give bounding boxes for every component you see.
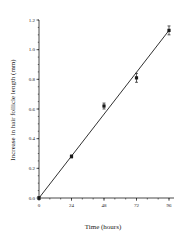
y-tick-label: 0.8 bbox=[29, 77, 36, 82]
line-chart: 0.00.20.40.60.81.01.2 024487296 Time (ho… bbox=[0, 0, 185, 242]
y-tick-label: 0.0 bbox=[29, 196, 36, 201]
y-tick-label: 1.2 bbox=[29, 18, 36, 23]
fit-line bbox=[39, 30, 169, 198]
x-axis: 024487296 bbox=[38, 198, 174, 208]
y-tick-label: 0.6 bbox=[29, 107, 36, 112]
data-point-marker bbox=[70, 155, 73, 158]
x-tick-label: 72 bbox=[134, 203, 140, 208]
data-point-marker bbox=[37, 196, 40, 199]
x-tick-label: 0 bbox=[38, 203, 41, 208]
x-axis-label: Time (hours) bbox=[85, 223, 122, 231]
y-tick-label: 1.0 bbox=[29, 47, 36, 52]
x-tick-label: 24 bbox=[69, 203, 75, 208]
x-tick-label: 96 bbox=[167, 203, 173, 208]
y-axis-label: Increase in hair follicle length (mm) bbox=[9, 59, 17, 161]
regression-line bbox=[39, 30, 169, 198]
data-point-marker bbox=[102, 104, 105, 107]
data-point-marker bbox=[167, 29, 170, 32]
y-tick-label: 0.4 bbox=[29, 136, 36, 141]
data-points bbox=[37, 26, 170, 200]
y-tick-label: 0.2 bbox=[29, 166, 36, 171]
x-tick-label: 48 bbox=[102, 203, 108, 208]
y-axis: 0.00.20.40.60.81.01.2 bbox=[29, 18, 39, 201]
data-point-marker bbox=[135, 76, 138, 79]
